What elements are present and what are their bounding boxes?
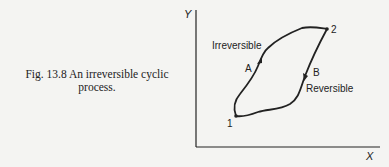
cycle-diagram: Y X 2 1 Irreversible A B Reversible: [0, 0, 389, 167]
path-a-label: A: [245, 63, 252, 74]
path-b-label: B: [313, 67, 320, 78]
state-point-2: [325, 27, 329, 31]
reversible-label: Reversible: [306, 83, 354, 94]
irreversible-label: Irreversible: [212, 40, 262, 51]
state-point-1: [234, 114, 238, 118]
y-axis-label: Y: [184, 8, 192, 20]
point-2-label: 2: [331, 24, 337, 35]
point-1-label: 1: [227, 118, 233, 129]
x-axis-label: X: [365, 150, 374, 162]
